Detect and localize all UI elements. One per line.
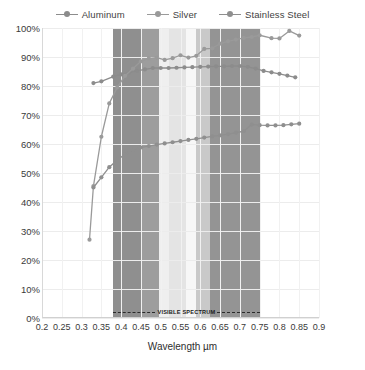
data-point <box>163 58 167 62</box>
data-point <box>155 142 159 146</box>
legend-label: Silver <box>173 9 197 20</box>
x-axis-tick-label: 0.4 <box>115 322 128 332</box>
x-axis-tick-label: 0.45 <box>132 322 150 332</box>
data-point <box>190 65 194 69</box>
data-point <box>273 123 277 127</box>
chart-legend: AluminumSilverStainless Steel <box>0 6 365 22</box>
series-line <box>89 31 299 240</box>
data-point <box>269 36 273 40</box>
data-point <box>202 136 206 140</box>
data-point <box>186 55 190 59</box>
data-point <box>139 145 143 149</box>
data-point <box>178 139 182 143</box>
data-point <box>242 129 246 133</box>
x-axis-tick-label: 0.2 <box>36 322 49 332</box>
annotation-dash-right <box>217 312 259 313</box>
data-point <box>254 67 258 71</box>
data-point <box>186 138 190 142</box>
data-point <box>170 56 174 60</box>
data-point <box>226 39 230 43</box>
data-point <box>277 72 281 76</box>
data-point <box>281 123 285 127</box>
data-point <box>99 79 103 83</box>
data-point <box>107 165 111 169</box>
data-point <box>218 42 222 46</box>
legend-marker-icon <box>219 10 241 19</box>
series-aluminum <box>91 64 297 85</box>
data-point <box>297 122 301 126</box>
x-axis-tick-label: 0.35 <box>93 322 111 332</box>
data-point <box>111 75 115 79</box>
data-point <box>242 36 246 40</box>
data-point <box>155 55 159 59</box>
data-point <box>99 175 103 179</box>
y-axis-tick-label: 70% <box>4 110 40 121</box>
legend-marker-icon <box>147 10 169 19</box>
data-point <box>238 64 242 68</box>
x-axis-tick-label: 0.55 <box>172 322 190 332</box>
data-point <box>206 64 210 68</box>
data-point <box>131 148 135 152</box>
data-point <box>194 54 198 58</box>
data-point <box>123 152 127 156</box>
legend-item-aluminum[interactable]: Aluminum <box>56 9 125 20</box>
reflectivity-chart: AluminumSilverStainless Steel VISIBLE SP… <box>0 0 365 370</box>
data-point <box>194 137 198 141</box>
data-point <box>87 238 91 242</box>
data-point <box>214 64 218 68</box>
data-point <box>210 134 214 138</box>
data-point <box>135 69 139 73</box>
x-axis-tick-label: 0.75 <box>251 322 269 332</box>
x-axis-tick-label: 0.85 <box>290 322 308 332</box>
data-point <box>147 56 151 60</box>
legend-label: Stainless Steel <box>245 9 309 20</box>
y-axis-tick-label: 90% <box>4 52 40 63</box>
y-axis-tick-label: 10% <box>4 284 40 295</box>
data-point <box>198 65 202 69</box>
y-axis-tick-label: 60% <box>4 139 40 150</box>
data-point <box>151 66 155 70</box>
data-point <box>250 122 254 126</box>
x-axis-tick-label: 0.7 <box>234 322 247 332</box>
data-point <box>107 101 111 105</box>
y-axis-tick-label: 40% <box>4 197 40 208</box>
data-point <box>163 141 167 145</box>
data-point <box>265 123 269 127</box>
data-point <box>277 36 281 40</box>
data-point <box>91 185 95 189</box>
x-axis-tick-label: 0.9 <box>313 322 326 332</box>
data-point <box>178 53 182 57</box>
data-point <box>230 64 234 68</box>
annotation-dash-left <box>113 312 155 313</box>
data-point <box>285 73 289 77</box>
data-point <box>297 33 301 37</box>
legend-marker-icon <box>56 10 78 19</box>
x-axis-tick-label: 0.6 <box>194 322 207 332</box>
data-point <box>218 133 222 137</box>
x-axis-tick-label: 0.8 <box>273 322 286 332</box>
legend-item-stainless-steel[interactable]: Stainless Steel <box>219 9 309 20</box>
data-point <box>170 140 174 144</box>
data-point <box>174 66 178 70</box>
x-axis-tick-label: 0.3 <box>75 322 88 332</box>
data-point <box>250 35 254 39</box>
data-point <box>262 69 266 73</box>
data-point <box>258 33 262 37</box>
data-point <box>91 81 95 85</box>
data-point <box>143 67 147 71</box>
legend-item-silver[interactable]: Silver <box>147 9 197 20</box>
data-point <box>115 158 119 162</box>
visible-spectrum-annotation: VISIBLE SPECTRUM <box>113 307 259 317</box>
data-series-layer <box>42 28 319 318</box>
data-point <box>234 131 238 135</box>
y-axis-tick-label: 0% <box>4 313 40 324</box>
data-point <box>289 122 293 126</box>
y-axis-tick-label: 50% <box>4 168 40 179</box>
data-point <box>115 85 119 89</box>
data-point <box>131 67 135 71</box>
data-point <box>222 64 226 68</box>
data-point <box>182 65 186 69</box>
data-point <box>210 46 214 50</box>
data-point <box>293 75 297 79</box>
data-point <box>147 144 151 148</box>
